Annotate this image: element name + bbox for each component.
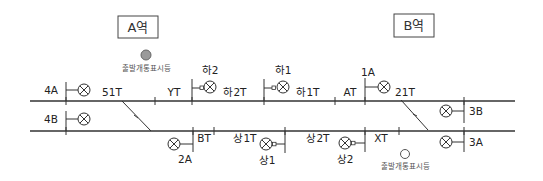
signal-4a[interactable]: 4A xyxy=(44,82,90,101)
track-at-label: AT xyxy=(344,86,357,98)
crossover-right xyxy=(401,100,428,130)
signal-2a-label: 2A xyxy=(178,153,193,165)
signal-3a-label: 3A xyxy=(469,136,484,148)
signal-ha1[interactable]: 하1 xyxy=(264,64,291,101)
signal-sang2-label: 상2 xyxy=(337,153,354,165)
signal-ha2[interactable]: 하2 xyxy=(192,64,218,101)
track-sang1t-label: 상1T xyxy=(233,132,257,144)
signal-3b[interactable]: 3B xyxy=(440,101,483,123)
signal-1a[interactable]: 1A xyxy=(361,66,390,101)
signal-sang1-label: 상1 xyxy=(259,154,276,166)
station-a-box: A역 xyxy=(118,16,158,38)
signal-1a-label: 1A xyxy=(361,66,376,78)
track-ha2t-label: 하2T xyxy=(223,86,247,98)
unlit-lamp-icon xyxy=(401,150,410,159)
track-sang2t-label: 상2T xyxy=(306,132,330,144)
track-21t-label: 21T xyxy=(395,86,415,98)
signal-4b-label: 4B xyxy=(44,113,58,125)
signal-3a[interactable]: 3A xyxy=(440,131,484,152)
track-bt-label: BT xyxy=(197,132,211,144)
station-a-label: A역 xyxy=(128,20,149,35)
signal-ha1-label: 하1 xyxy=(275,64,292,76)
lit-lamp-icon xyxy=(141,50,151,60)
departure-indicator-a-label: 출발개통표시등 xyxy=(122,63,171,73)
track-yt-label: YT xyxy=(167,86,181,98)
signal-3b-label: 3B xyxy=(469,105,483,117)
station-b-box: B역 xyxy=(394,14,434,37)
track-51t-label: 51T xyxy=(102,86,122,98)
departure-indicator-a: 출발개통표시등 xyxy=(122,50,171,73)
crossover-left xyxy=(122,101,151,131)
track-ha1t-label: 하1T xyxy=(296,86,320,98)
track-xt-label: XT xyxy=(374,132,388,144)
signal-ha2-label: 하2 xyxy=(202,64,219,76)
signal-4b[interactable]: 4B xyxy=(44,111,90,131)
signal-4a-label: 4A xyxy=(44,84,59,96)
railway-interlocking-diagram: A역 B역 출발개통표시등 출발개통표시등 xyxy=(0,0,543,181)
signal-2a[interactable]: 2A xyxy=(168,131,193,165)
departure-indicator-b-label: 출발개통표시등 xyxy=(381,161,430,171)
signal-sang1[interactable]: 상1 xyxy=(259,131,285,166)
departure-indicator-b: 출발개통표시등 xyxy=(381,150,430,172)
station-b-label: B역 xyxy=(404,18,425,33)
signal-sang2[interactable]: 상2 xyxy=(337,131,365,165)
